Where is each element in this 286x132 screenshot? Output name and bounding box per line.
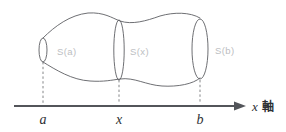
x-axis-name-variable: x (251, 99, 258, 114)
tick-label-a: a (40, 112, 47, 127)
x-axis (14, 102, 246, 111)
axis-tick-labels: a x b (40, 112, 204, 127)
solid-bottom-curve (43, 62, 200, 86)
solid-of-revolution-figure: S(a) S(x) S(b) a x b x 軸 (0, 0, 286, 132)
solid-top-curve (43, 13, 200, 38)
cross-section-ellipse-b (192, 19, 208, 79)
x-axis-name-suffix: 軸 (262, 99, 274, 114)
cross-section-ellipse-x (114, 20, 124, 80)
tick-label-b: b (197, 112, 204, 127)
x-axis-name: x 軸 (251, 99, 274, 114)
cross-section-label-x: S(x) (130, 46, 149, 57)
arrow-right-icon (234, 102, 246, 111)
drop-lines (43, 62, 200, 104)
tick-label-x: x (115, 112, 123, 127)
cross-section-label-a: S(a) (57, 46, 77, 57)
cross-section-ellipse-a (39, 38, 47, 62)
figure-canvas: S(a) S(x) S(b) a x b x 軸 (0, 0, 286, 132)
cross-section-label-b: S(b) (215, 45, 235, 56)
